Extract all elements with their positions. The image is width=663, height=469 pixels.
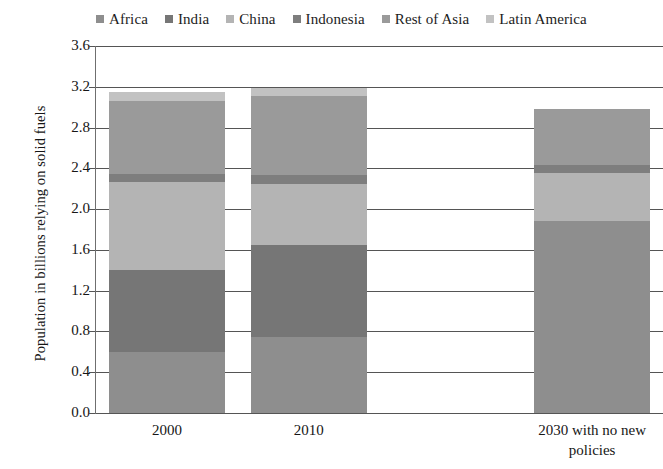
legend-swatch-icon xyxy=(382,15,390,23)
bar-segment-africa[interactable] xyxy=(251,337,367,413)
bar-segment-india[interactable] xyxy=(251,245,367,337)
bar-segment-latin-america[interactable] xyxy=(109,92,225,101)
bar-group[interactable] xyxy=(534,46,650,413)
y-axis-tick-label: 2.8 xyxy=(46,120,90,135)
bar-stack[interactable] xyxy=(109,92,225,413)
legend-swatch-icon xyxy=(486,15,494,23)
y-axis-tick-label: 2.0 xyxy=(46,201,90,216)
y-axis-tick-label: 0.0 xyxy=(46,405,90,420)
y-axis-tick xyxy=(89,250,95,251)
y-axis-tick xyxy=(89,168,95,169)
y-axis-tick xyxy=(89,413,95,414)
legend-item[interactable]: Indonesia xyxy=(293,11,365,27)
bar-segment-africa[interactable] xyxy=(534,221,650,413)
x-axis-tick-label: 2030 with no newpolicies xyxy=(521,420,663,460)
y-axis-tick-labels: 3.63.22.82.42.01.61.20.80.40.0 xyxy=(30,0,90,469)
chart-legend: AfricaIndiaChinaIndonesiaRest of AsiaLat… xyxy=(0,6,663,32)
y-axis-tick xyxy=(89,128,95,129)
y-axis-tick-label: 3.2 xyxy=(46,79,90,94)
bar-stack[interactable] xyxy=(251,88,367,413)
y-axis-tick-label: 2.4 xyxy=(46,160,90,175)
legend-swatch-icon xyxy=(96,15,104,23)
bar-group[interactable] xyxy=(251,46,367,413)
bar-segment-latin-america[interactable] xyxy=(251,88,367,96)
legend-item[interactable]: China xyxy=(226,11,275,27)
y-axis-tick-label: 1.2 xyxy=(46,283,90,298)
y-axis-tick-label: 3.6 xyxy=(46,38,90,53)
bar-segment-rest-of-asia[interactable] xyxy=(251,96,367,176)
bar-segment-rest-of-asia[interactable] xyxy=(109,101,225,174)
bar-group[interactable] xyxy=(109,46,225,413)
bar-segment-rest-of-asia[interactable] xyxy=(534,109,650,165)
x-axis-tick-label: 2010 xyxy=(238,420,380,440)
legend-item-label: Africa xyxy=(109,11,148,27)
x-axis-tick-labels: 200020102030 with no newpolicies xyxy=(96,420,663,468)
y-axis-tick xyxy=(89,291,95,292)
legend-item[interactable]: Latin America xyxy=(486,11,587,27)
bar-segment-india[interactable] xyxy=(109,270,225,352)
y-axis-tick xyxy=(89,46,95,47)
gridline xyxy=(96,413,663,414)
y-axis-tick xyxy=(89,331,95,332)
bar-segment-china[interactable] xyxy=(251,184,367,245)
legend-item[interactable]: Africa xyxy=(96,11,148,27)
legend-swatch-icon xyxy=(226,15,234,23)
y-axis-tick xyxy=(89,87,95,88)
legend-swatch-icon xyxy=(293,15,301,23)
plot-area xyxy=(96,46,663,413)
legend-item[interactable]: India xyxy=(165,11,209,27)
bar-segment-china[interactable] xyxy=(534,173,650,221)
legend-item-label: Latin America xyxy=(499,11,587,27)
y-axis-tick-label: 0.4 xyxy=(46,364,90,379)
bar-segment-indonesia[interactable] xyxy=(109,174,225,181)
bar-segment-china[interactable] xyxy=(109,182,225,271)
legend-item-label: Indonesia xyxy=(306,11,365,27)
legend-swatch-icon xyxy=(165,15,173,23)
y-axis-tick-label: 0.8 xyxy=(46,323,90,338)
legend-item-label: India xyxy=(178,11,209,27)
y-axis-tick xyxy=(89,372,95,373)
legend-item-label: China xyxy=(239,11,275,27)
y-axis-tick xyxy=(89,209,95,210)
legend-item[interactable]: Rest of Asia xyxy=(382,11,470,27)
x-axis-tick-label: 2000 xyxy=(96,420,238,440)
y-axis-tick-label: 1.6 xyxy=(46,242,90,257)
legend-item-label: Rest of Asia xyxy=(395,11,470,27)
bar-segment-indonesia[interactable] xyxy=(251,175,367,183)
stacked-bar-chart: AfricaIndiaChinaIndonesiaRest of AsiaLat… xyxy=(0,0,663,469)
bar-segment-africa[interactable] xyxy=(109,352,225,413)
bar-segment-indonesia[interactable] xyxy=(534,165,650,173)
bar-stack[interactable] xyxy=(534,109,650,413)
